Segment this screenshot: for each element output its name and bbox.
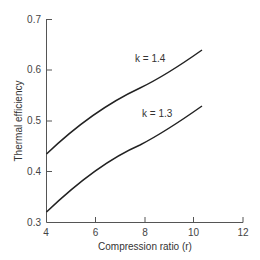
x-tick: 12 [237,227,249,238]
y-tick: 0.3 [27,217,41,228]
annotation-k-1.4: k = 1.4 [135,53,166,64]
series-line-k-1.3 [47,106,203,212]
annotation-k-1.3: k = 1.3 [142,108,173,119]
y-axis-label: Thermal efficiency [13,81,24,162]
y-tick-labels: 0.3 0.4 0.5 0.6 0.7 [27,14,41,228]
series-line-k-1.4 [47,50,203,154]
y-tick: 0.4 [27,166,41,177]
x-tick: 10 [188,227,200,238]
axes [47,19,244,223]
x-tick: 6 [93,227,99,238]
y-tick: 0.5 [27,115,41,126]
x-tick-labels: 4 6 8 10 12 [43,227,249,238]
x-tick: 8 [142,227,148,238]
x-axis-label: Compression ratio (r) [98,241,192,252]
x-tick: 4 [43,227,49,238]
y-tick: 0.6 [27,64,41,75]
y-tick: 0.7 [27,14,41,25]
chart: 0.3 0.4 0.5 0.6 0.7 4 6 8 10 12 Compress… [0,0,260,260]
